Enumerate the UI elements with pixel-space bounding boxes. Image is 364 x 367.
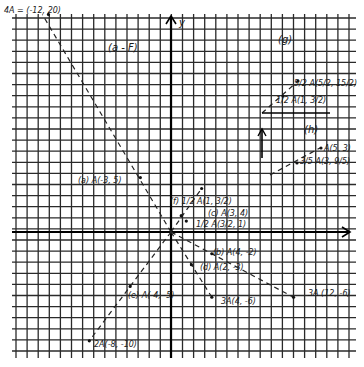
label-c: (c) A(3, 4)	[208, 210, 248, 218]
point-mark	[295, 161, 298, 164]
label-3a-right: 3A (12, -6)	[308, 290, 351, 298]
point-mark	[88, 339, 91, 342]
label-a-h: A(5, 3)	[324, 145, 351, 153]
graph-paper: 4A = (-12, 20) (a - F) y (g) (h) (a) A(-…	[0, 0, 364, 367]
label-part-a-f: (a - F)	[108, 43, 138, 53]
point-mark	[319, 146, 322, 149]
label-b: (b) A(4, -2)	[213, 249, 257, 257]
point-mark	[210, 296, 213, 299]
label-5-2a: 5/2 A(5/2, 15/2)	[294, 80, 357, 88]
label-d: (d) A(2, -3)	[200, 264, 244, 272]
label-half-a-g: 1/2 A(1, 3/2)	[276, 97, 326, 105]
point-mark	[129, 285, 132, 288]
point-mark	[139, 176, 142, 179]
label-e: (e) A(-4, -5)	[128, 292, 174, 300]
label-2a: 2A(-8, -10)	[94, 341, 137, 349]
label-half-a: 1/2 A(3/2, 1)	[196, 221, 246, 229]
point-mark	[292, 296, 295, 299]
label-part-h: (h)	[304, 125, 318, 135]
label-part-g: (g)	[278, 35, 292, 45]
line-origin-to-4a	[42, 14, 171, 232]
point-mark	[180, 214, 183, 217]
grid-svg	[0, 0, 364, 367]
point-mark	[200, 187, 203, 190]
label-a: (a) A(-3, 5)	[78, 177, 122, 185]
label-3a-left: 3A(4, -6)	[221, 298, 256, 306]
point-mark	[190, 263, 193, 266]
point-mark	[185, 220, 188, 223]
label-4a: 4A = (-12, 20)	[4, 7, 61, 15]
y-axis-label: y	[179, 18, 185, 28]
label-f: (f) 1/2 A(1, 3/2)	[170, 198, 232, 206]
label-3-5a: 3/5 A(3, 9/5)	[300, 158, 350, 166]
